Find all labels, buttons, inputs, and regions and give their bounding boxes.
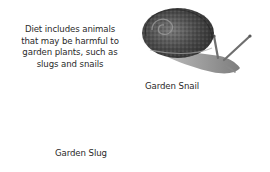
garden-snail-illustration [136,8,252,73]
garden-snail-label: Garden Snail [145,81,199,91]
illustration-canvas [0,0,270,172]
garden-slug-label: Garden Slug [55,148,107,158]
